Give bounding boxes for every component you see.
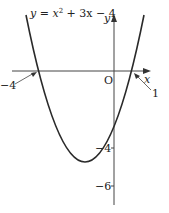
equation-label: y = x2 + 3x − 4 [29,7,116,20]
parabola-curve [26,15,144,162]
root-right-label: 1 [152,87,159,100]
min-tick-label: −6 [95,180,111,193]
y-axis-label: y [103,12,111,25]
leader-left-arrow-icon [31,72,37,77]
y-intercept-label: −4 [95,142,111,155]
root-left-label: −4 [0,79,16,92]
leader-root-left [15,73,34,84]
graph-canvas: y = x2 + 3x − 4 y x O −4 1 −4 −6 [0,0,169,213]
x-axis-label: x [144,73,151,86]
origin-label: O [104,74,113,87]
